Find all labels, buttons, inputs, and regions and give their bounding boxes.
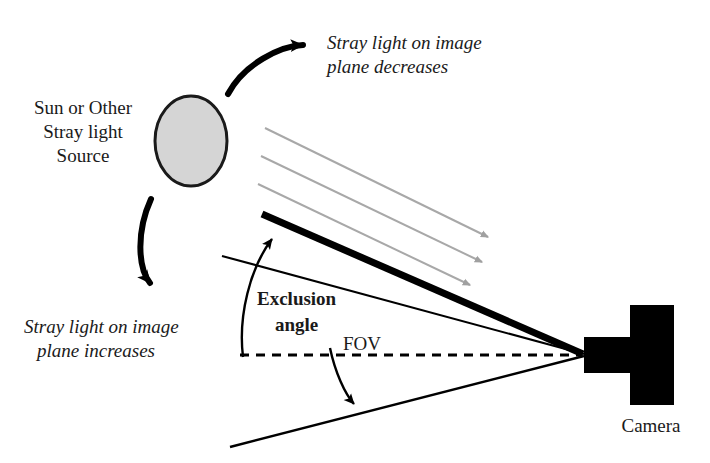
camera-lens-rect — [584, 337, 630, 373]
decrease-note-line2: plane decreases — [325, 56, 448, 77]
source-label-line1: Sun or Other — [34, 97, 133, 118]
exclusion-angle-line1: Exclusion — [257, 288, 337, 309]
camera-label: Camera — [621, 415, 681, 436]
stray-light-source-ellipse — [155, 96, 227, 186]
decrease-note-line1: Stray light on image — [327, 32, 482, 53]
source-label-line3: Source — [57, 145, 110, 166]
fov-label: FOV — [343, 333, 381, 354]
increase-note-line2: plane increases — [35, 340, 155, 361]
curved-arrow-down-icon — [140, 199, 151, 283]
stray-light-diagram: Sun or Other Stray light Source Stray li… — [0, 0, 710, 463]
fov-lower-edge-line — [230, 356, 584, 447]
exclusion-angle-label: Exclusion angle — [257, 288, 337, 335]
diagram-canvas: Sun or Other Stray light Source Stray li… — [0, 0, 710, 463]
increase-note-line1: Stray light on image — [24, 316, 179, 337]
stray-light-ray-1 — [265, 128, 488, 237]
stray-light-ray-2 — [261, 156, 482, 262]
camera-icon — [584, 305, 674, 405]
camera-body-rect — [630, 305, 674, 405]
source-label: Sun or Other Stray light Source — [34, 97, 133, 166]
decrease-note-label: Stray light on image plane decreases — [325, 32, 482, 77]
exclusion-angle-line2: angle — [275, 314, 318, 335]
source-label-line2: Stray light — [43, 121, 123, 142]
stray-light-ray-3 — [258, 184, 470, 285]
curved-arrow-up-icon — [228, 45, 303, 94]
increase-note-label: Stray light on image plane increases — [24, 316, 179, 361]
